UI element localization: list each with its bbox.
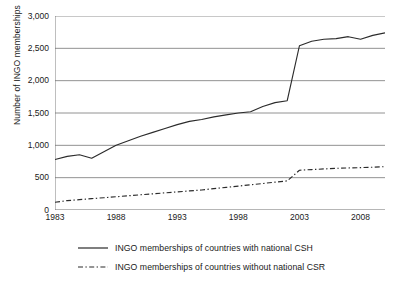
x-axis-tick-label: 2003 [277, 213, 321, 222]
y-axis-tick-label: 1,000 [3, 141, 49, 150]
data-series-1 [55, 33, 385, 160]
x-axis-tick-label: 1988 [94, 213, 138, 222]
legend-key-dash-dot-line-icon [78, 262, 108, 272]
y-axis-tick-label: 3,000 [3, 12, 49, 21]
x-axis-tick-label: 2008 [339, 213, 383, 222]
x-axis-tick-label: 1993 [155, 213, 199, 222]
chart-legend: INGO memberships of countries with natio… [0, 238, 396, 276]
x-axis-tick-label: 1983 [33, 213, 77, 222]
y-axis-tick-label: 500 [3, 173, 49, 182]
x-axis-tick-label: 1998 [216, 213, 260, 222]
data-series-2 [55, 167, 385, 203]
y-axis-tick-label: 2,500 [3, 44, 49, 53]
x-axis-tick-labels: 198319881993199820032008 [0, 213, 396, 227]
plot-area [55, 16, 385, 210]
legend-key-solid-line-icon [78, 243, 108, 253]
chart-figure: Number of INGO memberships 05001,0001,50… [0, 0, 396, 283]
data-series-layer [55, 33, 385, 202]
y-axis-tick-label: 1,500 [3, 109, 49, 118]
y-axis-tick-label: 2,000 [3, 76, 49, 85]
legend-item-without-csr: INGO memberships of countries without na… [0, 257, 396, 276]
gridlines [55, 16, 385, 210]
legend-item-with-csh: INGO memberships of countries with natio… [0, 238, 396, 257]
chart-canvas [55, 16, 385, 210]
legend-label-without-csr: INGO memberships of countries without na… [115, 262, 325, 272]
legend-label-with-csh: INGO memberships of countries with natio… [115, 243, 313, 253]
